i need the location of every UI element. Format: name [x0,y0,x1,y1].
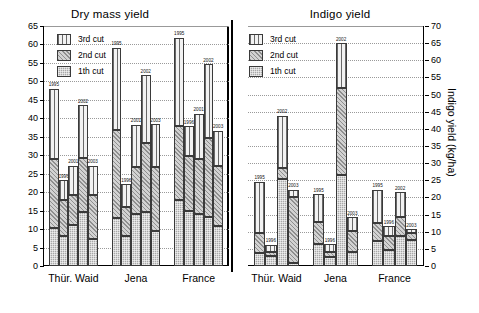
legend-swatch-icon [57,34,71,45]
bar-segment-2nd-cut [213,166,223,226]
bar-indigo-jena-2003[interactable]: 2003 [347,26,358,266]
bar-segment-1th-cut [194,214,204,266]
y-tick-label-left-10: 10 [28,225,38,234]
bar-indigo-france-2003[interactable]: 2003 [406,26,417,266]
bar-segment-3rd-cut [78,105,88,158]
y-tick-left-30 [40,155,44,156]
bar-indigo-jena-1996[interactable]: 1996 [324,26,335,266]
bar-drymass-jena-2001[interactable]: 2001 [131,26,141,266]
y-axis-left: 05101520253035404550556065 [43,26,44,266]
y-tick-label-left-30: 30 [28,151,38,160]
bar-drymass-jena-2002[interactable]: 2002 [141,26,151,266]
y-tick-left-35 [40,137,44,138]
bar-segment-1th-cut [59,236,69,266]
bar-segment-2nd-cut [112,130,122,218]
bar-drymass-france-1996[interactable]: 1996 [184,26,194,266]
bar-segment-3rd-cut [151,124,161,167]
bar-year-label: 2001 [68,159,78,164]
y-tick-right-35 [425,146,429,147]
bar-year-label: 2002 [141,69,151,74]
bar-segment-3rd-cut [383,226,394,235]
bar-drymass-france-2003[interactable]: 2003 [213,26,223,266]
y-tick-right-65 [425,43,429,44]
bar-indigo-jena-1995[interactable]: 1995 [313,26,324,266]
y-axis-right: 0510152025303540455055606570 [423,26,424,266]
bar-segment-1th-cut [204,217,214,266]
bar-segment-1th-cut [288,263,299,266]
legend-label: 3rd cut [270,35,296,44]
bar-year-label: 1996 [58,174,68,179]
bar-drymass-france-2001[interactable]: 2001 [194,26,204,266]
bar-segment-2nd-cut [49,159,59,228]
y-tick-left-20 [40,192,44,193]
bar-segment-2nd-cut [78,158,88,212]
bar-drymass-jena-1995[interactable]: 1995 [112,26,122,266]
bar-segment-3rd-cut [395,192,406,217]
y-tick-label-right-35: 35 [431,142,441,151]
bar-drymass-france-1995[interactable]: 1995 [174,26,184,266]
bar-year-label: 1995 [49,82,59,87]
bar-drymass-france-2002[interactable]: 2002 [204,26,214,266]
bar-indigo-france-2002[interactable]: 2002 [395,26,406,266]
x-group-label-thrwaid: Thür. Waid [48,272,98,284]
bar-year-label: 1996 [325,238,335,243]
y-tick-right-40 [425,129,429,130]
bar-segment-3rd-cut [406,229,417,232]
bar-year-label: 2003 [88,159,98,164]
bar-segment-2nd-cut [406,233,417,241]
legend-item-indigo-1[interactable]: 2nd cut [249,49,298,61]
legend-item-drymass-0[interactable]: 3rd cut [57,33,106,45]
bar-drymass-jena-1996[interactable]: 1996 [121,26,131,266]
bar-segment-2nd-cut [277,168,288,179]
bar-segment-2nd-cut [131,167,141,214]
bar-indigo-france-1996[interactable]: 1996 [383,26,394,266]
bar-segment-3rd-cut [204,64,214,138]
panel-title-dry-mass: Dry mass yield [10,8,210,20]
y-tick-right-20 [425,197,429,198]
legend-item-drymass-1[interactable]: 2nd cut [57,49,106,61]
bar-year-label: 2003 [150,118,160,123]
bar-segment-2nd-cut [151,167,161,231]
bar-year-label: 1995 [255,175,265,180]
figure-root: Dry mass yield Indigo yield 199519962001… [0,0,479,313]
bar-segment-1th-cut [406,240,417,266]
y-tick-left-15 [40,211,44,212]
legend-item-indigo-0[interactable]: 3rd cut [249,33,298,45]
y-tick-right-25 [425,180,429,181]
legend-label: 1th cut [78,67,104,76]
bar-segment-3rd-cut [121,184,131,207]
bar-segment-1th-cut [347,252,358,266]
y-tick-label-right-45: 45 [431,107,441,116]
bar-drymass-jena-2003[interactable]: 2003 [151,26,161,266]
bar-segment-2nd-cut [59,200,69,237]
bar-segment-2nd-cut [121,207,131,237]
y-tick-label-left-25: 25 [28,169,38,178]
bar-year-label: 2002 [395,186,405,191]
y-tick-label-right-5: 5 [431,244,436,253]
bar-segment-3rd-cut [112,48,122,130]
bar-segment-1th-cut [49,228,59,266]
x-group-label-france: France [378,272,411,284]
bar-year-label: 1995 [111,41,121,46]
y-tick-label-left-50: 50 [28,77,38,86]
bar-segment-2nd-cut [184,156,194,211]
y-tick-left-40 [40,118,44,119]
y-tick-label-left-45: 45 [28,95,38,104]
y-tick-label-right-25: 25 [431,176,441,185]
legend-item-drymass-2[interactable]: 1th cut [57,65,106,77]
legend-item-indigo-2[interactable]: 1th cut [249,65,298,77]
x-group-label-france: France [182,272,215,284]
bar-indigo-jena-2002[interactable]: 2002 [336,26,347,266]
bar-segment-1th-cut [395,236,406,266]
bar-segment-2nd-cut [265,252,276,256]
y-tick-label-right-0: 0 [431,262,436,271]
legend-swatch-icon [249,66,263,77]
bar-indigo-france-1995[interactable]: 1995 [372,26,383,266]
y-tick-left-10 [40,229,44,230]
x-group-label-jena: Jena [125,272,148,284]
bar-segment-1th-cut [336,175,347,266]
legend-label: 2nd cut [270,51,298,60]
bar-year-label: 2002 [78,99,88,104]
bar-segment-1th-cut [213,226,223,266]
y-tick-label-left-5: 5 [33,243,38,252]
